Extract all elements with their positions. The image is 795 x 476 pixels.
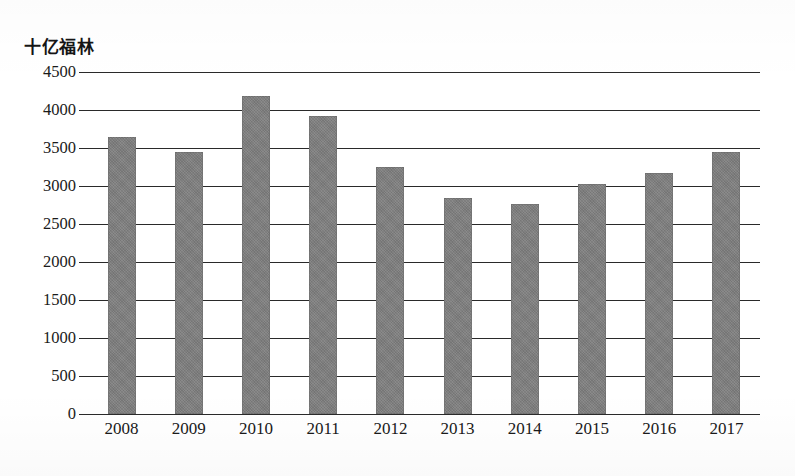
x-axis-tick-label: 2013 <box>441 420 475 437</box>
gridline <box>88 414 760 415</box>
y-axis-tick <box>79 338 88 339</box>
y-axis-tick-label: 1500 <box>43 292 76 309</box>
y-axis-tick <box>79 110 88 111</box>
y-axis-tick-label: 3500 <box>43 140 76 157</box>
y-axis-tick <box>79 376 88 377</box>
y-axis-tick-label: 500 <box>51 368 76 385</box>
bar <box>108 137 136 414</box>
bar <box>175 152 203 414</box>
y-axis-unit-title: 十亿福林 <box>24 33 94 58</box>
y-axis-tick <box>79 224 88 225</box>
x-axis-tick-label: 2016 <box>642 420 676 437</box>
y-axis-tick <box>79 262 88 263</box>
bar <box>511 204 539 414</box>
bar <box>578 184 606 414</box>
x-axis-tick-label: 2011 <box>307 420 340 437</box>
bar <box>309 116 337 414</box>
bar <box>645 173 673 414</box>
y-axis-tick <box>79 148 88 149</box>
x-axis-tick-label: 2014 <box>508 420 542 437</box>
x-axis-tick-label: 2008 <box>105 420 139 437</box>
plot-area: 050010001500200025003000350040004500 <box>88 72 760 414</box>
x-axis-tick-labels: 2008200920102011201220132014201520162017 <box>88 420 760 454</box>
y-axis-tick <box>79 414 88 415</box>
y-axis-tick-label: 4500 <box>43 64 76 81</box>
x-axis-tick-label: 2009 <box>172 420 206 437</box>
y-axis-tick-label: 2500 <box>43 216 76 233</box>
y-axis-tick <box>79 300 88 301</box>
y-axis-tick-label: 2000 <box>43 254 76 271</box>
y-axis-tick <box>79 186 88 187</box>
bar-chart: 十亿福林 05001000150020002500300035004000450… <box>0 0 795 476</box>
bar <box>242 96 270 414</box>
x-axis-tick-label: 2017 <box>709 420 743 437</box>
bars-group <box>88 72 760 414</box>
y-axis-tick <box>79 72 88 73</box>
y-axis-tick-label: 4000 <box>43 102 76 119</box>
bar <box>376 167 404 414</box>
x-axis-tick-label: 2012 <box>373 420 407 437</box>
x-axis-tick-label: 2010 <box>239 420 273 437</box>
bar <box>444 198 472 414</box>
y-axis-tick-label: 3000 <box>43 178 76 195</box>
x-axis-tick-label: 2015 <box>575 420 609 437</box>
y-axis-tick-label: 1000 <box>43 330 76 347</box>
bar <box>712 152 740 414</box>
y-axis-tick-label: 0 <box>68 406 76 423</box>
